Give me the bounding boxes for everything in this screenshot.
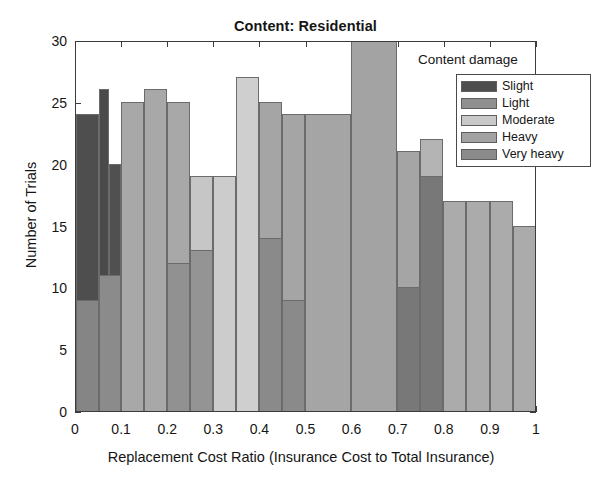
- x-tick-mark-top: [536, 41, 537, 47]
- y-tick-mark: [75, 41, 81, 42]
- histogram-bar: [76, 300, 99, 411]
- legend: SlightLightModerateHeavyVery heavy: [456, 74, 591, 167]
- x-tick-mark-top: [444, 41, 445, 47]
- histogram-bar: [213, 176, 236, 411]
- histogram-bar: [99, 275, 121, 411]
- y-axis-label: Number of Trials: [23, 95, 39, 335]
- histogram-bar: [282, 300, 305, 411]
- page-title: Content: Residential: [75, 18, 536, 34]
- y-tick-label: 30: [29, 33, 67, 49]
- legend-item-label: Light: [502, 97, 529, 110]
- x-tick-mark-top: [213, 41, 214, 47]
- y-tick-mark-right: [530, 412, 536, 413]
- y-tick-mark: [75, 103, 81, 104]
- legend-item-label: Slight: [502, 80, 533, 93]
- histogram-bar: [397, 287, 420, 411]
- figure-canvas: Content: Residential 00.10.20.30.40.50.6…: [0, 0, 602, 483]
- x-tick-mark-top: [259, 41, 260, 47]
- y-tick-mark-right: [530, 41, 536, 42]
- x-tick-label: 0.5: [296, 421, 315, 437]
- histogram-bar: [144, 89, 167, 411]
- x-tick-label: 0.7: [388, 421, 407, 437]
- legend-item[interactable]: Light: [461, 95, 586, 112]
- x-tick-label: 0.8: [434, 421, 453, 437]
- histogram-bar: [443, 201, 466, 411]
- legend-item[interactable]: Slight: [461, 78, 586, 95]
- legend-item[interactable]: Moderate: [461, 112, 586, 129]
- histogram-bar: [466, 201, 489, 411]
- histogram-bar: [420, 176, 443, 411]
- histogram-bar: [351, 41, 397, 411]
- legend-swatch-icon: [461, 149, 497, 160]
- legend-swatch-icon: [461, 98, 497, 109]
- legend-title: Content damage: [418, 52, 518, 67]
- legend-swatch-icon: [461, 132, 497, 143]
- histogram-bar: [259, 238, 282, 411]
- histogram-bar: [305, 114, 351, 411]
- x-tick-mark-top: [490, 41, 491, 47]
- x-tick-label: 0.2: [157, 421, 176, 437]
- x-tick-label: 0.6: [342, 421, 361, 437]
- legend-item-label: Very heavy: [502, 148, 564, 161]
- legend-swatch-icon: [461, 115, 497, 126]
- y-tick-label: 0: [29, 404, 67, 420]
- histogram-bar: [167, 263, 190, 411]
- legend-item-label: Heavy: [502, 131, 537, 144]
- histogram-bar: [190, 250, 213, 411]
- x-tick-mark-top: [398, 41, 399, 47]
- legend-item[interactable]: Heavy: [461, 129, 586, 146]
- histogram-bar: [490, 201, 513, 411]
- x-tick-mark-top: [167, 41, 168, 47]
- x-tick-label: 0.3: [204, 421, 223, 437]
- x-tick-label: 0: [71, 421, 79, 437]
- histogram-bar: [121, 102, 144, 411]
- x-tick-mark-top: [306, 41, 307, 47]
- legend-swatch-icon: [461, 81, 497, 92]
- x-tick-label: 0.4: [250, 421, 269, 437]
- x-tick-mark: [536, 406, 537, 412]
- x-tick-label: 0.9: [480, 421, 499, 437]
- y-tick-mark: [75, 412, 81, 413]
- x-tick-label: 1: [532, 421, 540, 437]
- x-tick-label: 0.1: [111, 421, 130, 437]
- y-tick-label: 5: [29, 342, 67, 358]
- histogram-bar: [513, 226, 536, 412]
- histogram-bar: [236, 77, 259, 411]
- x-axis-label: Replacement Cost Ratio (Insurance Cost t…: [0, 449, 602, 465]
- legend-item-label: Moderate: [502, 114, 555, 127]
- legend-item[interactable]: Very heavy: [461, 146, 586, 163]
- x-tick-mark-top: [121, 41, 122, 47]
